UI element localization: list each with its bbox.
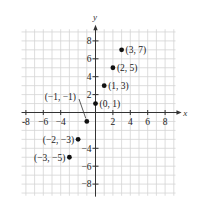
data-point (67, 155, 72, 160)
point-label: (3, 7) (126, 45, 147, 56)
point-label: (−2, −3) (43, 135, 74, 146)
y-tick-label: 8 (87, 36, 92, 46)
scatter-plot: -8−6−424688642−4−6−8 (−3, −5)(−2, −3)(−1… (0, 0, 200, 198)
data-point (84, 119, 89, 124)
y-tick-label: 6 (87, 54, 92, 64)
data-point (119, 47, 124, 52)
y-tick-label: −4 (81, 144, 91, 154)
point-label: (0, 1) (100, 99, 121, 110)
point-label: (1, 3) (108, 81, 129, 92)
x-tick-label: −6 (38, 117, 48, 127)
point-label: (−3, −5) (34, 153, 65, 164)
data-point (93, 101, 98, 106)
y-tick-label: −6 (81, 162, 91, 172)
x-tick-label: 4 (128, 117, 133, 127)
point-label: (−1, −1) (45, 92, 76, 103)
data-point (76, 137, 81, 142)
x-tick-label: -8 (22, 117, 30, 127)
x-tick-label: 8 (163, 117, 168, 127)
point-label: (2, 5) (117, 63, 138, 74)
axes (22, 25, 182, 197)
data-point (111, 65, 116, 70)
y-tick-label: −8 (81, 179, 91, 189)
data-point (102, 83, 107, 88)
x-tick-label: −4 (56, 117, 66, 127)
x-tick-label: 2 (111, 117, 116, 127)
x-tick-label: 6 (145, 117, 150, 127)
y-tick-label: 4 (87, 72, 92, 82)
x-axis-label: x (182, 108, 187, 118)
y-axis-label: y (92, 12, 97, 22)
y-tick-label: 2 (87, 90, 92, 100)
